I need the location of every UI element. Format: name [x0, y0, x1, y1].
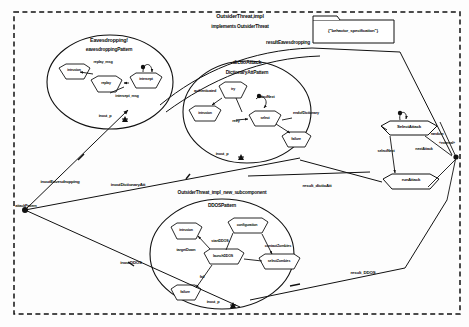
- inout-eavesdropping-label: inoutEavesdropping: [41, 180, 80, 184]
- ddos-state-launchddos: launchDDOS: [213, 255, 233, 259]
- eavesdropping-port-label: inout_p: [99, 114, 112, 118]
- ddos-pattern: DDOSPattern: [208, 204, 236, 209]
- dictioattack-transition-selectnext: selectNext: [258, 96, 275, 100]
- run-attack-label: runAttack: [402, 178, 421, 182]
- eavesdropping-state-replay: replay: [101, 82, 110, 86]
- result-ddos-label: result_DDOS: [351, 271, 376, 275]
- inout-ddos-label: inoutDDOS: [120, 261, 142, 265]
- dictioattack-title: dictioAttack: [233, 60, 261, 65]
- attack-pattern-label: attackPattern: [15, 205, 36, 209]
- frame-subtitle: implements OutsiderThreat: [211, 25, 268, 30]
- dictioattack-transition-retry: retry: [232, 120, 239, 124]
- dictioattack-state-select: select: [261, 117, 270, 121]
- eavesdropping-pattern: eavesdroppingPattern: [86, 48, 133, 53]
- select-next-label: selectNext: [378, 150, 395, 154]
- inout-dictionaryatt-label: inoutDictionaryAtt: [111, 183, 146, 187]
- ddos-state-intrusion: intrusion: [179, 229, 193, 233]
- eavesdropping-transition-replay-msg: replay_msg: [93, 61, 112, 65]
- ddos-transition-contactzombies: contactZombies: [265, 245, 291, 249]
- eavesdropping-title: Eavesdropping!: [90, 38, 128, 43]
- ddos-transition-fail: fail: [200, 276, 205, 280]
- dictioattack-state-intrusion: intrusion: [198, 112, 212, 116]
- ddos-port-label: inout_p: [207, 300, 220, 304]
- ddos-state-selectzombies: selectZombies: [268, 260, 290, 264]
- diagram-vector-layer: [0, 0, 469, 327]
- ddos-state-failure: failure: [180, 291, 189, 295]
- result-eavesdropping-label: resultEavesdropping: [266, 41, 310, 46]
- dictioattack-port-label: inout_p: [216, 152, 229, 156]
- eavesdropping-state-intrusion: intrusion: [67, 69, 81, 73]
- dictioattack-state-try: try: [231, 88, 235, 92]
- external-stereotype-label: «external»: [439, 142, 455, 146]
- note-text: {"behavior_specification"}: [328, 29, 378, 33]
- dictioattack-transition-authenticated: authenticated: [194, 90, 216, 94]
- dictioattack-state-failure: failure: [291, 138, 300, 142]
- random-label: random: [431, 133, 444, 137]
- select-attack-label: SelectAttack: [397, 125, 421, 129]
- ddos-transition-targetdown: targetDown: [177, 249, 196, 253]
- result-dictioatt-label: result_dictioAtt: [302, 184, 331, 188]
- eavesdropping-transition-intercept-msg: intercept_msg: [115, 95, 138, 99]
- ddos-title: OutsiderThreat_impl_new_subcomponent: [178, 191, 267, 196]
- ddos-state-configuration: configuration: [237, 224, 257, 228]
- frame-title: OutsiderThreat,impl: [216, 14, 263, 19]
- dictioattack-transition-endofdictionary: endofDictionary: [293, 112, 319, 116]
- dictioattack-pattern: DictionaryAttPattern: [226, 71, 269, 76]
- ddos-transition-startddos: startDDOS: [211, 240, 228, 244]
- diagram-canvas: OutsiderThreat,impl implements OutsiderT…: [0, 0, 469, 327]
- next-attack-label: nextAttack: [415, 148, 432, 152]
- eavesdropping-state-intercept: intercept: [139, 78, 152, 82]
